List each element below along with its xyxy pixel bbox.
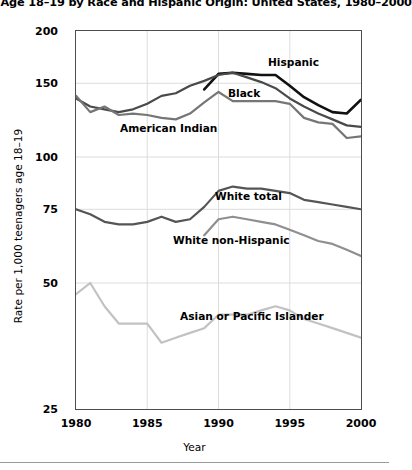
x-tick-label: 2000: [331, 417, 391, 430]
y-tick-label: 150: [18, 78, 58, 89]
plot-area: [75, 30, 362, 410]
x-tick-label: 1995: [260, 417, 320, 430]
y-tick-label: 200: [18, 26, 58, 37]
x-tick-label: 1980: [46, 417, 106, 430]
series-label: Hispanic: [268, 56, 319, 68]
y-tick-label: 50: [18, 278, 58, 289]
footer-divider: [0, 462, 389, 463]
series-label: Asian or Pacific Islander: [180, 310, 324, 322]
series-label: American Indian: [120, 122, 217, 134]
y-tick-label: 75: [18, 204, 58, 215]
x-axis-label: Year: [0, 441, 389, 453]
series-canvas: [76, 31, 361, 409]
series-label: Black: [228, 87, 260, 99]
chart-title: ers Age 18–19 by Race and Hispanic Origi…: [0, 0, 412, 9]
x-tick-label: 1985: [117, 417, 177, 430]
y-tick-label: 25: [18, 404, 58, 415]
y-tick-label: 100: [18, 152, 58, 163]
series-label: White total: [215, 190, 282, 202]
x-tick-label: 1990: [189, 417, 249, 430]
series-label: White non-Hispanic: [173, 234, 290, 246]
